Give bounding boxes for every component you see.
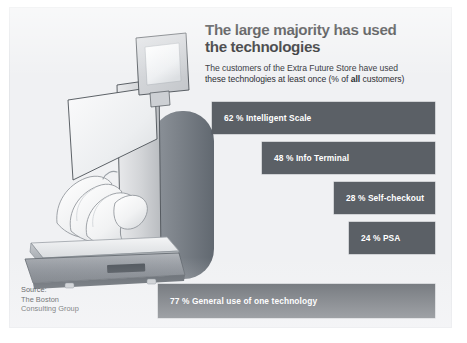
scale-foot-right <box>147 279 156 284</box>
title-line-2: the technologies <box>205 38 320 55</box>
bar-label: 48 % Info Terminal <box>262 153 349 163</box>
bar-label: 77 % General use of one technology <box>158 296 317 306</box>
screenshot-frame: The large majority has used the technolo… <box>0 0 467 343</box>
bar-intelligent-scale: 62 % Intelligent Scale <box>212 102 435 134</box>
bar-label: 28 % Self-checkout <box>334 193 424 203</box>
title-line-1: The large majority has used <box>205 21 396 38</box>
chart-subtitle: The customers of the Extra Future Store … <box>205 63 448 86</box>
monitor-neck <box>150 91 170 107</box>
bar-self-checkout: 28 % Self-checkout <box>334 182 435 214</box>
bar-label: 24 % PSA <box>349 233 400 243</box>
subtitle-line-2-post: customers) <box>360 74 404 84</box>
page-title: The large majority has used the technolo… <box>205 21 448 56</box>
monitor-screen-inset <box>145 43 181 85</box>
subtitle-line-1: The customers of the Extra Future Store … <box>205 63 398 73</box>
source-line-3: Consulting Group <box>21 304 79 314</box>
source-note: Source: The Boston Consulting Group <box>21 285 79 314</box>
bar-psa: 24 % PSA <box>349 222 435 254</box>
source-line-2: The Boston <box>21 295 79 305</box>
subtitle-line-2-pre: these technologies at least once (% of <box>205 74 351 84</box>
bar-general-use-of-one-technology: 77 % General use of one technology <box>158 284 435 318</box>
bar-info-terminal: 48 % Info Terminal <box>262 142 435 174</box>
subtitle-emphasis: all <box>351 74 360 84</box>
headline-block: The large majority has used the technolo… <box>205 21 448 86</box>
bar-label: 62 % Intelligent Scale <box>212 113 311 123</box>
intelligent-scale-illustration <box>9 7 224 307</box>
source-line-1: Source: <box>21 285 79 295</box>
base-control-strip <box>107 263 145 273</box>
chart-card: The large majority has used the technolo… <box>9 7 452 328</box>
